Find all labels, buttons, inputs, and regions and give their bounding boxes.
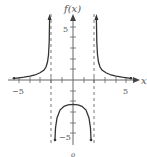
point-left-end xyxy=(13,77,16,80)
point-middle-left-end xyxy=(54,139,57,142)
y-axis-label: f(x) xyxy=(63,3,81,14)
point-middle-right-end xyxy=(90,139,93,142)
y-axis-arrow-icon xyxy=(70,14,76,21)
arrow-right-top-icon xyxy=(94,14,98,20)
x-tick-label-neg5: −5 xyxy=(12,87,24,96)
graph: f(x) x −5 5 5 −5 o xyxy=(0,0,147,157)
y-tick-label-neg5: −5 xyxy=(59,133,71,142)
footer-glyph: o xyxy=(71,151,75,157)
curve-left-branch xyxy=(14,18,50,78)
x-axis-arrow-icon xyxy=(133,77,140,83)
curve-right-branch xyxy=(96,18,131,78)
y-tick-label-pos5: 5 xyxy=(63,25,68,34)
x-tick-label-pos5: 5 xyxy=(123,87,128,96)
x-axis-label: x xyxy=(141,75,147,86)
point-right-end xyxy=(130,77,133,80)
